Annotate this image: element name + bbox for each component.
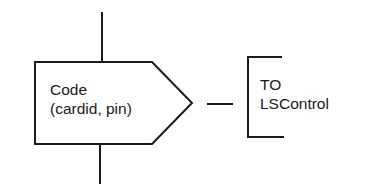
destination-keyword: TO xyxy=(260,75,329,94)
process-name: Code xyxy=(50,80,132,99)
destination-target: LSControl xyxy=(260,94,329,113)
process-label: Code (cardid, pin) xyxy=(50,80,132,118)
destination-label: TO LSControl xyxy=(260,75,329,113)
process-params: (cardid, pin) xyxy=(50,99,132,118)
